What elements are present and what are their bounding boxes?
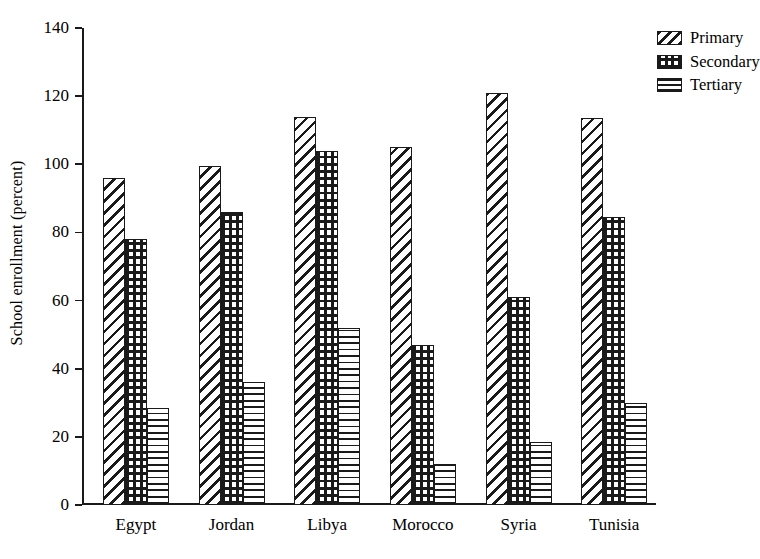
y-axis-tick: 20 — [75, 436, 82, 438]
y-axis-tick-label: 100 — [44, 155, 70, 172]
y-axis-tick: 140 — [75, 27, 82, 29]
legend: PrimarySecondaryTertiary — [657, 30, 760, 94]
legend-item-primary: Primary — [657, 30, 760, 47]
legend-item-secondary: Secondary — [657, 54, 760, 71]
legend-swatch-secondary-icon — [657, 55, 682, 69]
bar-libya-primary — [294, 117, 316, 505]
legend-swatch-tertiary-icon — [657, 78, 682, 92]
bar-egypt-tertiary — [147, 408, 169, 505]
bar-group — [103, 28, 169, 505]
legend-label: Tertiary — [690, 77, 742, 94]
bar-jordan-secondary — [221, 212, 243, 505]
bar-group — [581, 28, 647, 505]
bar-syria-primary — [486, 93, 508, 505]
y-axis-tick: 0 — [75, 504, 82, 506]
y-axis-tick-label: 140 — [44, 19, 70, 36]
x-axis-label-tunisia: Tunisia — [551, 516, 677, 533]
y-axis-tick: 40 — [75, 368, 82, 370]
bar-libya-secondary — [316, 151, 338, 505]
plot-area: 020406080100120140 — [82, 28, 656, 505]
bar-morocco-primary — [390, 147, 412, 505]
y-axis-title: School enrollment (percent) — [2, 0, 32, 505]
legend-swatch-primary-icon — [657, 31, 682, 45]
bar-morocco-tertiary — [434, 464, 456, 505]
bar-syria-secondary — [508, 297, 530, 505]
bar-egypt-primary — [103, 178, 125, 505]
y-axis-tick-label: 120 — [44, 87, 70, 104]
y-axis-title-label: School enrollment (percent) — [8, 160, 26, 345]
bar-libya-tertiary — [338, 328, 360, 505]
bar-jordan-primary — [199, 166, 221, 505]
bar-tunisia-secondary — [603, 217, 625, 505]
legend-label: Secondary — [690, 54, 760, 71]
y-axis-tick-label: 80 — [52, 224, 69, 241]
bar-egypt-secondary — [125, 239, 147, 505]
bar-tunisia-tertiary — [625, 403, 647, 505]
y-axis-tick-label: 40 — [52, 360, 69, 377]
y-axis-tick-label: 20 — [52, 428, 69, 445]
y-axis-tick: 120 — [75, 95, 82, 97]
bar-group — [390, 28, 456, 505]
y-axis-tick: 60 — [75, 300, 82, 302]
bar-morocco-secondary — [412, 345, 434, 505]
y-axis-tick-label: 0 — [61, 496, 70, 513]
bar-group — [294, 28, 360, 505]
y-axis-tick: 100 — [75, 163, 82, 165]
bar-group — [199, 28, 265, 505]
bar-tunisia-primary — [581, 118, 603, 505]
bar-syria-tertiary — [530, 442, 552, 505]
bar-group — [486, 28, 552, 505]
y-axis-tick-label: 60 — [52, 292, 69, 309]
y-axis-tick: 80 — [75, 232, 82, 234]
bar-jordan-tertiary — [243, 382, 265, 505]
legend-label: Primary — [690, 30, 743, 47]
y-axis-line — [82, 28, 84, 505]
legend-item-tertiary: Tertiary — [657, 77, 760, 94]
